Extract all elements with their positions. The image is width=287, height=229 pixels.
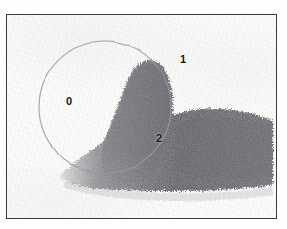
- region-label-0: 0: [66, 96, 72, 107]
- screenshot-canvas: 0 1 2: [0, 0, 287, 229]
- region-label-1: 1: [180, 54, 186, 65]
- drawing-plate: 0 1 2: [6, 14, 277, 219]
- drawing-layer: [7, 15, 277, 219]
- region-label-2: 2: [156, 133, 162, 144]
